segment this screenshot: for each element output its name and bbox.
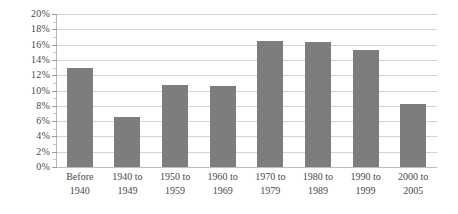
x-axis-category-label: 1980 to1989 <box>294 170 342 198</box>
x-axis-category-label-line: 1950 to <box>151 170 199 184</box>
x-axis-category-label: 1990 to1999 <box>342 170 390 198</box>
y-axis-tick-label: 8% <box>2 101 50 111</box>
y-axis-major-tick <box>52 91 57 92</box>
x-axis-category-label: 1960 to1969 <box>199 170 247 198</box>
x-axis-category-label-line: 1979 <box>246 184 294 198</box>
y-axis-major-tick <box>52 167 57 168</box>
y-axis-minor-tick <box>53 52 56 53</box>
y-axis-tick-label: 18% <box>2 24 50 34</box>
y-axis-tick-label: 14% <box>2 55 50 65</box>
y-axis-tick-label: 20% <box>2 9 50 19</box>
x-axis-category-label: 1940 to1949 <box>103 170 151 198</box>
y-axis-major-tick <box>52 45 57 46</box>
y-axis-tick-label: 2% <box>2 147 50 157</box>
bar <box>305 42 331 167</box>
bar-chart: 0%2%4%6%8%10%12%14%16%18%20% Before19401… <box>0 0 458 214</box>
gridline <box>56 167 437 168</box>
y-axis-tick-label: 12% <box>2 70 50 80</box>
y-axis-major-tick <box>52 14 57 15</box>
y-axis-minor-tick <box>53 144 56 145</box>
bar <box>210 86 236 167</box>
y-axis-tick-label: 0% <box>2 162 50 172</box>
y-axis-labels: 0%2%4%6%8%10%12%14%16%18%20% <box>0 0 50 214</box>
y-axis-tick-label: 16% <box>2 40 50 50</box>
x-axis-category-label-line: 1940 to <box>103 170 151 184</box>
y-axis-tick-label: 10% <box>2 86 50 96</box>
y-axis-major-tick <box>52 75 57 76</box>
bar <box>353 50 379 167</box>
y-axis-tick-label: 4% <box>2 131 50 141</box>
bar <box>400 104 426 167</box>
x-axis-category-label: Before1940 <box>56 170 104 198</box>
x-axis-category-label-line: 1940 <box>56 184 104 198</box>
y-axis-minor-tick <box>53 22 56 23</box>
y-axis-major-tick <box>52 29 57 30</box>
x-axis-category-label-line: 1959 <box>151 184 199 198</box>
x-axis-category-label-line: 2000 to <box>389 170 437 184</box>
bars-group <box>56 14 437 167</box>
x-axis-category-label-line: 1960 to <box>199 170 247 184</box>
y-axis-minor-tick <box>53 159 56 160</box>
bar <box>114 117 140 167</box>
y-axis-minor-tick <box>53 37 56 38</box>
x-axis-category-label-line: 1970 to <box>246 170 294 184</box>
x-axis-category-label: 1950 to1959 <box>151 170 199 198</box>
y-axis-minor-tick <box>53 98 56 99</box>
y-axis-minor-tick <box>53 83 56 84</box>
x-axis-category-label-line: 1990 to <box>342 170 390 184</box>
y-axis-minor-tick <box>53 129 56 130</box>
x-axis-labels: Before19401940 to19491950 to19591960 to1… <box>56 170 437 214</box>
y-axis-major-tick <box>52 121 57 122</box>
x-axis-category-label-line: 1999 <box>342 184 390 198</box>
y-axis-major-tick <box>52 152 57 153</box>
y-axis-minor-tick <box>53 113 56 114</box>
y-axis-tick-label: 6% <box>2 116 50 126</box>
y-axis-minor-tick <box>53 68 56 69</box>
bar <box>67 68 93 167</box>
x-axis-category-label-line: 1969 <box>199 184 247 198</box>
x-axis-category-label: 2000 to2005 <box>389 170 437 198</box>
x-axis-category-label-line: 1989 <box>294 184 342 198</box>
bar <box>162 85 188 167</box>
x-axis-category-label-line: Before <box>56 170 104 184</box>
bar <box>257 41 283 167</box>
x-axis-category-label-line: 1980 to <box>294 170 342 184</box>
y-axis-major-tick <box>52 106 57 107</box>
y-axis-major-tick <box>52 136 57 137</box>
x-axis-category-label: 1970 to1979 <box>246 170 294 198</box>
x-axis-category-label-line: 2005 <box>389 184 437 198</box>
y-axis-major-tick <box>52 60 57 61</box>
x-axis-category-label-line: 1949 <box>103 184 151 198</box>
